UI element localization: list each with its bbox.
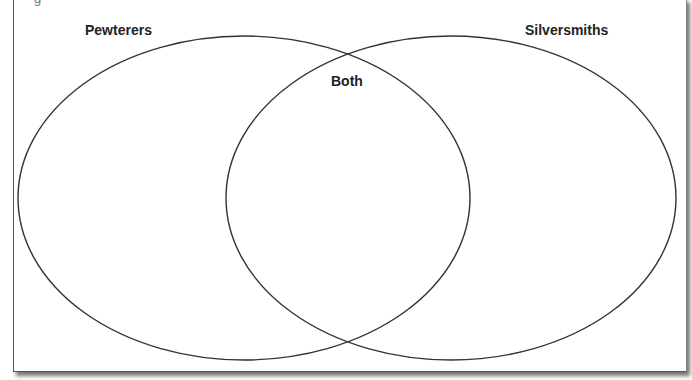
venn-circles: [0, 0, 692, 380]
pewterers-circle: [18, 36, 470, 360]
venn-diagram-page: g Pewterers Silversmiths Both: [0, 0, 692, 380]
pewterers-label: Pewterers: [85, 22, 152, 38]
both-label: Both: [331, 73, 363, 89]
silversmiths-circle: [226, 36, 676, 360]
silversmiths-label: Silversmiths: [525, 22, 608, 38]
